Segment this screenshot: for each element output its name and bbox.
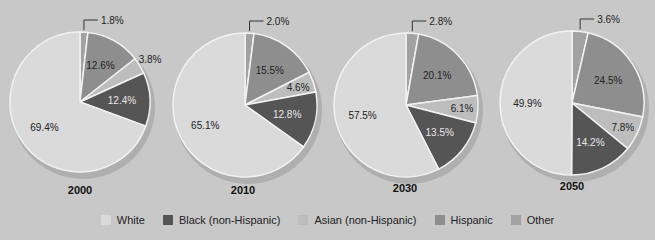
slice-label-2010-white: 65.1% <box>191 120 219 131</box>
slice-label-2010-other: 2.0% <box>267 16 290 27</box>
legend-swatch-white <box>101 215 111 225</box>
slice-label-2010-black: 12.8% <box>273 109 301 120</box>
slice-label-2000-black: 12.4% <box>108 95 136 106</box>
year-label-2030: 2030 <box>393 182 417 194</box>
pie-charts: 1.8%12.6%3.8%12.4%69.4%2.0%15.5%4.6%12.8… <box>0 0 655 200</box>
slice-label-2010-asian: 4.6% <box>287 82 310 93</box>
slice-label-2000-other: 1.8% <box>101 15 124 26</box>
legend-item-hispanic: Hispanic <box>435 214 493 226</box>
legend-label-asian: Asian (non-Hispanic) <box>314 214 416 226</box>
slice-label-2030-asian: 6.1% <box>451 103 474 114</box>
leader-line-2030 <box>412 21 426 31</box>
legend-label-hispanic: Hispanic <box>451 214 493 226</box>
year-label-2000: 2000 <box>68 184 92 196</box>
slice-label-2050-asian: 7.8% <box>611 122 634 133</box>
slice-label-2030-white: 57.5% <box>348 110 376 121</box>
legend-item-other: Other <box>511 214 555 226</box>
pie-chart-canvas: 1.8%12.6%3.8%12.4%69.4%2.0%15.5%4.6%12.8… <box>0 0 655 200</box>
slice-label-2050-other: 3.6% <box>597 14 620 25</box>
legend-item-black: Black (non-Hispanic) <box>163 214 280 226</box>
slice-label-2030-hispanic: 20.1% <box>423 70 451 81</box>
slice-label-2030-other: 2.8% <box>429 16 452 27</box>
slice-label-2030-black: 13.5% <box>426 127 454 138</box>
legend-item-white: White <box>101 214 145 226</box>
legend: White Black (non-Hispanic) Asian (non-Hi… <box>0 214 655 226</box>
leader-line-2000 <box>84 20 98 30</box>
slice-label-2010-hispanic: 15.5% <box>256 65 284 76</box>
year-label-2050: 2050 <box>560 180 584 192</box>
slice-label-2000-hispanic: 12.6% <box>86 60 114 71</box>
legend-swatch-black <box>163 215 173 225</box>
legend-label-black: Black (non-Hispanic) <box>179 214 280 226</box>
slice-label-2050-black: 14.2% <box>576 137 604 148</box>
legend-label-other: Other <box>527 214 555 226</box>
legend-swatch-hispanic <box>435 215 445 225</box>
slice-label-2050-hispanic: 24.5% <box>594 75 622 86</box>
legend-swatch-asian <box>298 215 308 225</box>
legend-swatch-other <box>511 215 521 225</box>
year-label-2010: 2010 <box>231 184 255 196</box>
legend-item-asian: Asian (non-Hispanic) <box>298 214 416 226</box>
slice-label-2000-white: 69.4% <box>30 122 58 133</box>
slice-label-2000-asian: 3.8% <box>139 54 162 65</box>
slice-label-2050-white: 49.9% <box>513 98 541 109</box>
legend-label-white: White <box>117 214 145 226</box>
leader-line-2050 <box>580 19 594 29</box>
leader-line-2010 <box>250 21 264 31</box>
